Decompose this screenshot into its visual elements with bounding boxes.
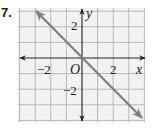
y-tick-label-neg2: −2 <box>63 83 77 98</box>
coordinate-graph: −2 O 2 x 2 y −2 <box>0 0 155 133</box>
y-tick-label-2: 2 <box>71 18 78 33</box>
x-tick-label-neg2: −2 <box>37 62 51 77</box>
x-axis-label: x <box>135 62 143 77</box>
y-axis-label: y <box>84 6 93 21</box>
x-tick-label-2: 2 <box>110 62 117 77</box>
origin-label: O <box>70 62 80 77</box>
